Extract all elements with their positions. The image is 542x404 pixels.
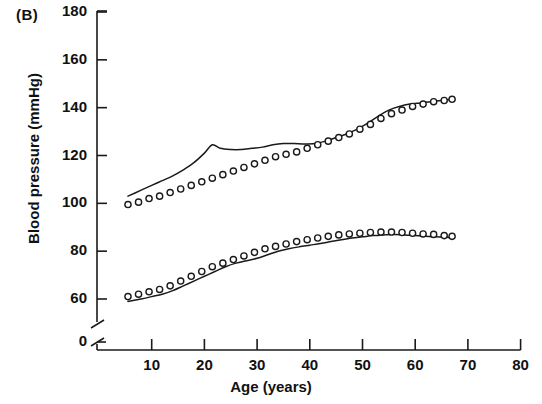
series-systolic-circles [125,96,455,207]
x-tick-label: 10 [132,356,172,373]
y-tick-label: 160 [27,50,87,67]
x-tick-label: 20 [184,356,224,373]
y-tick-label: 180 [27,2,87,19]
x-tick-label: 50 [343,356,383,373]
series-diastolic-line [128,234,452,301]
y-tick-label: 80 [27,241,87,258]
series-diastolic-circles [125,229,455,300]
y-tick-label: 60 [27,289,87,306]
y-tick-label: 120 [27,146,87,163]
x-tick-label: 70 [448,356,488,373]
x-tick-label: 30 [237,356,277,373]
chart-figure: (B) Blood pressure (mmHg) Age (years) 06… [0,0,542,404]
series-systolic-line [128,99,452,196]
y-tick-label: 0 [27,332,87,349]
x-tick-label: 80 [501,356,541,373]
x-tick-label: 60 [395,356,435,373]
x-tick-label: 40 [290,356,330,373]
y-tick-label: 100 [27,193,87,210]
y-tick-label: 140 [27,98,87,115]
